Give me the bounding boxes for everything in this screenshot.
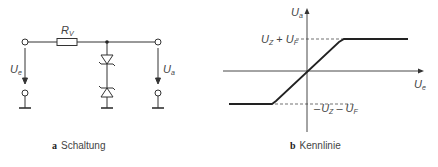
circuit-schematic [19,39,164,109]
upper-level-label: UZ + UF [261,33,299,46]
output-voltage-label: Ua [163,63,175,76]
zener-diode-upper [99,55,115,66]
arrow-up-icon [305,8,310,14]
lower-level-label: –UZ – UF [314,102,359,115]
input-terminal-bottom [22,90,28,96]
output-terminal-top [155,39,161,45]
caption-b: bKennlinie [290,140,341,151]
figure: RV Ue Ua aSchaltung Ua Ue UZ + UF –UZ – … [0,0,438,167]
zener-diode-lower [99,86,115,97]
arrow-down-icon [156,78,161,84]
arrow-down-icon [23,78,28,84]
arrow-right-icon [418,69,424,74]
x-axis-label: Ue [414,78,426,91]
resistor-rv [57,39,77,46]
resistor-label: RV [61,24,75,37]
y-axis-label: Ua [291,6,303,19]
output-terminal-bottom [155,90,161,96]
input-voltage-label: Ue [10,63,22,76]
characteristic-curve [229,39,408,104]
input-terminal-top [22,39,28,45]
caption-a: aSchaltung [52,140,105,151]
